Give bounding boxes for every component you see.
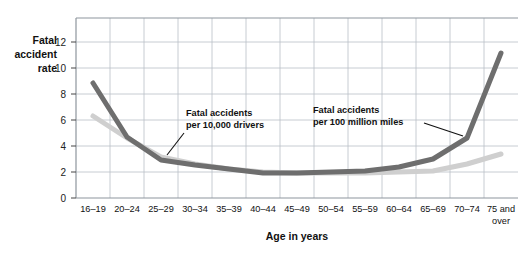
x-tick-label-45-49: 45–49 bbox=[284, 204, 310, 214]
x-axis-title: Age in years bbox=[266, 230, 329, 242]
x-tick-label-30-34: 30–34 bbox=[182, 204, 208, 214]
y-tick-label-8: 8 bbox=[60, 89, 66, 100]
y-axis-title-line1: Fatal bbox=[32, 34, 57, 46]
annotation-drivers-line2: per 10,000 drivers bbox=[186, 120, 264, 130]
x-tick-label-35-39: 35–39 bbox=[216, 204, 242, 214]
x-tick-label-25-29: 25–29 bbox=[148, 204, 174, 214]
annotation-drivers-line1: Fatal accidents bbox=[186, 108, 252, 118]
x-tick-label-65-69: 65–69 bbox=[420, 204, 446, 214]
annotation-miles-line1: Fatal accidents bbox=[313, 105, 379, 115]
x-tick-label-50-54: 50–54 bbox=[318, 204, 344, 214]
x-tick-label-55-59: 55–59 bbox=[352, 204, 378, 214]
x-tick-label-75-and-over-line2: over bbox=[492, 216, 510, 226]
y-tick-label-6: 6 bbox=[60, 115, 66, 126]
y-axis-title-line3: rate bbox=[38, 62, 57, 74]
x-tick-label-70-74: 70–74 bbox=[454, 204, 480, 214]
x-tick-label-75-and-over-line1: 75 and bbox=[487, 204, 515, 214]
line-chart-svg: 0 2 4 6 8 10 12 Fatal accident rate 16–1… bbox=[0, 0, 529, 253]
x-tick-label-20-24: 20–24 bbox=[114, 204, 140, 214]
annotation-miles-line2: per 100 million miles bbox=[313, 117, 403, 127]
x-tick-label-16-19: 16–19 bbox=[80, 204, 106, 214]
y-tick-label-0: 0 bbox=[60, 193, 66, 204]
y-tick-label-4: 4 bbox=[60, 141, 66, 152]
y-tick-label-2: 2 bbox=[60, 167, 66, 178]
chart-figure: 0 2 4 6 8 10 12 Fatal accident rate 16–1… bbox=[0, 0, 529, 253]
x-tick-label-60-64: 60–64 bbox=[386, 204, 412, 214]
x-tick-label-40-44: 40–44 bbox=[250, 204, 276, 214]
y-axis-title-line2: accident bbox=[14, 48, 57, 60]
y-axis-ticks bbox=[71, 42, 76, 198]
